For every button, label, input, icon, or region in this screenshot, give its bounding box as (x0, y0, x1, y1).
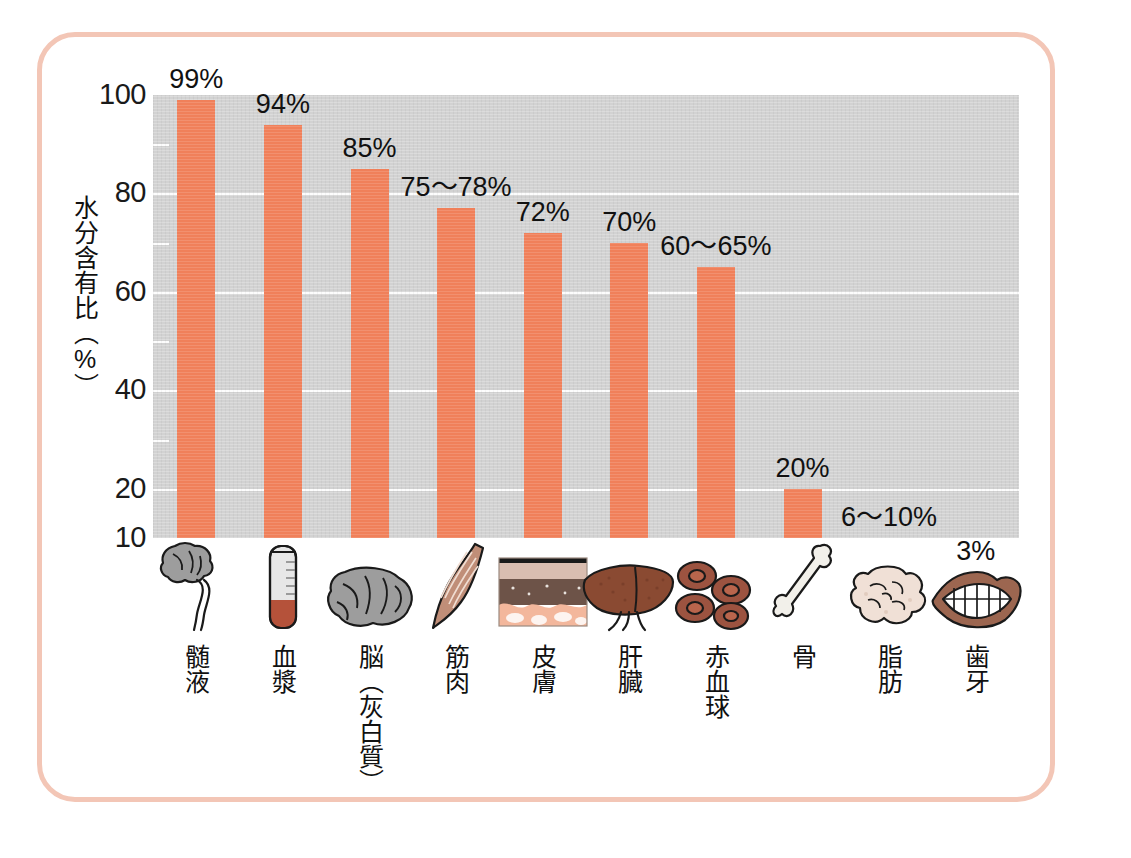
bar (264, 125, 302, 538)
category-label: 皮膚 (530, 644, 556, 694)
category-label: 脂肪 (876, 644, 902, 694)
minor-tick (153, 440, 169, 442)
category-label: 髄液 (183, 644, 209, 694)
category-label: 血漿 (270, 644, 296, 694)
category-label: 歯牙 (963, 644, 989, 694)
bar (351, 169, 389, 538)
bar (437, 208, 475, 538)
bar-value-label: 94% (193, 91, 373, 118)
bar-value-label: 60〜65% (626, 233, 806, 260)
bar (610, 243, 648, 538)
bar (697, 267, 735, 538)
category-label: 骨 (790, 644, 816, 669)
bar (177, 100, 215, 538)
bar (524, 233, 562, 538)
category-label: 赤血球 (703, 644, 729, 719)
bar-value-label: 85% (280, 135, 460, 162)
category-label: 筋肉 (443, 644, 469, 694)
bar-value-label: 20% (713, 455, 893, 482)
y-tick-label-10: 10 (84, 523, 146, 552)
y-tick-label-80: 80 (84, 178, 146, 207)
y-tick-label-20: 20 (84, 474, 146, 503)
mouth-teeth-icon (921, 540, 1031, 632)
y-tick-label-60: 60 (84, 277, 146, 306)
chart-page: 水分含有比（%） 1008060402010 99%94%85%75〜78%72… (0, 0, 1131, 858)
category-label: 脳（灰白質） (357, 644, 383, 794)
bar-value-label: 6〜10% (799, 504, 979, 531)
category-10: 歯牙 (921, 540, 1031, 694)
minor-tick (153, 341, 169, 343)
minor-tick (153, 144, 169, 146)
y-tick-label-40: 40 (84, 375, 146, 404)
category-label: 肝臓 (616, 644, 642, 694)
minor-tick (153, 243, 169, 245)
